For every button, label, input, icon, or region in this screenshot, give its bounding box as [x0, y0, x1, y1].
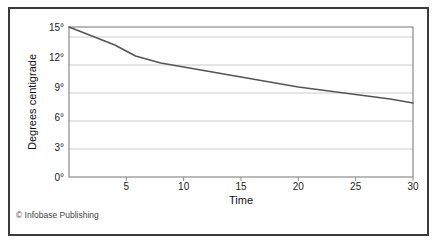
plot-frame: [69, 27, 413, 177]
plot-gridlines: [69, 37, 413, 149]
y-tick-label-group: 0°3°6°9°12°15°: [49, 22, 64, 183]
y-tick-label: 6°: [54, 112, 64, 123]
figure-container: 51015202530 0°3°6°9°12°15° Time Degrees …: [0, 0, 437, 244]
x-tick-label: 30: [407, 181, 419, 192]
y-tick-label: 3°: [54, 142, 64, 153]
x-tick-label-group: 51015202530: [124, 177, 419, 192]
y-tick-label: 15°: [49, 22, 64, 33]
copyright-credit: © Infobase Publishing: [16, 210, 99, 220]
y-tick-label: 0°: [54, 172, 64, 183]
y-axis-title: Degrees centigrade: [26, 54, 38, 150]
y-tick-label: 12°: [49, 52, 64, 63]
x-tick-label: 10: [178, 181, 190, 192]
x-tick-label: 20: [293, 181, 305, 192]
plot-wrapper: 51015202530 0°3°6°9°12°15° Time Degrees …: [0, 0, 437, 244]
x-tick-label: 15: [235, 181, 247, 192]
y-tick-label: 9°: [54, 82, 64, 93]
x-axis-title: Time: [229, 194, 253, 206]
x-tick-label: 5: [124, 181, 130, 192]
line-chart: 51015202530 0°3°6°9°12°15° Time Degrees …: [0, 0, 437, 244]
x-tick-label: 25: [350, 181, 362, 192]
